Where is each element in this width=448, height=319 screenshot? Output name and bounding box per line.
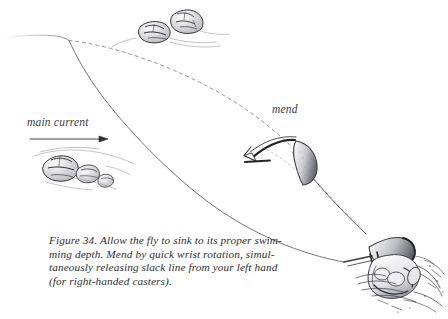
- water-surface-line: [2, 35, 69, 40]
- caption-line-4: (for right-handed casters).: [49, 275, 264, 289]
- current-arrow-icon: [30, 136, 108, 142]
- casters-hand-gripping-rod: [344, 237, 422, 298]
- caption-line-3: taneously releasing slack line from your…: [49, 261, 264, 275]
- stream-boulder-upper-left: [139, 22, 171, 43]
- figure-illustration: main current mend Figure 34. Allow the f…: [0, 0, 448, 319]
- stream-boulder-lower-cluster: [43, 156, 114, 187]
- label-mend: mend: [272, 103, 298, 115]
- stream-boulder-upper-right: [171, 10, 203, 34]
- caption-line-2: ming depth. Mend by quick wrist rotation…: [49, 248, 264, 262]
- figure-caption: Figure 34. Allow the fly to sink to its …: [49, 234, 264, 288]
- rod-tip-mend-loop: [244, 137, 317, 185]
- label-main-current: main current: [27, 116, 89, 128]
- fly-line-dashed-drifted: [69, 41, 292, 148]
- caption-line-1: Figure 34. Allow the fly to sink to its …: [49, 234, 264, 248]
